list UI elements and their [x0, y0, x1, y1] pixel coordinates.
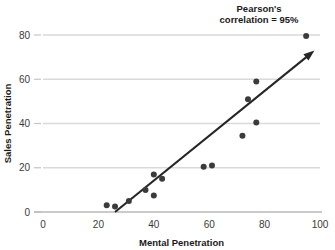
datapoint — [245, 96, 251, 102]
pearson-note-line1: Pearson's — [237, 3, 282, 14]
x-tick-label-100: 100 — [312, 219, 329, 230]
datapoint — [201, 164, 207, 170]
y-tick-label-80: 80 — [19, 30, 31, 41]
datapoint — [142, 187, 148, 193]
datapoint — [253, 119, 259, 125]
x-tick-label-80: 80 — [259, 219, 271, 230]
x-tick-label-0: 0 — [40, 219, 46, 230]
datapoint — [104, 202, 110, 208]
scatter-chart: 020406080 020406080100 Sales Penetration… — [0, 0, 335, 250]
datapoint — [112, 203, 118, 209]
pearson-note-line2: correlation = 95% — [220, 14, 299, 25]
datapoint — [151, 171, 157, 177]
datapoint — [253, 78, 259, 84]
chart-page: 020406080 020406080100 Sales Penetration… — [0, 0, 335, 250]
y-tick-label-0: 0 — [24, 207, 30, 218]
datapoint — [209, 163, 215, 169]
y-tick-label-60: 60 — [19, 74, 31, 85]
y-axis-title: Sales Penetration — [2, 83, 13, 163]
x-tick-label-60: 60 — [204, 219, 216, 230]
x-axis-title: Mental Penetration — [139, 237, 224, 248]
datapoint — [159, 176, 165, 182]
datapoint — [151, 192, 157, 198]
x-tick-label-20: 20 — [93, 219, 105, 230]
x-tick-label-40: 40 — [148, 219, 160, 230]
y-tick-label-40: 40 — [19, 118, 31, 129]
datapoint — [239, 133, 245, 139]
datapoint — [126, 198, 132, 204]
datapoint — [303, 33, 309, 39]
y-tick-label-20: 20 — [19, 162, 31, 173]
